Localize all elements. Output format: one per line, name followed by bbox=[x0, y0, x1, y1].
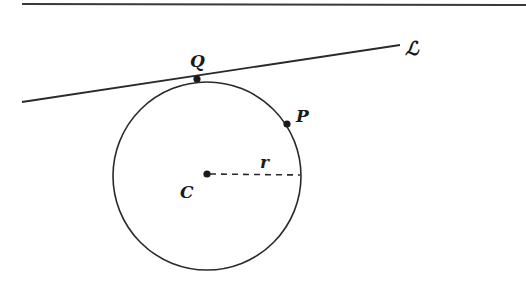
label-r: r bbox=[260, 152, 270, 172]
label-line-l: ℒ bbox=[405, 37, 420, 59]
label-q: Q bbox=[190, 51, 205, 71]
point-p bbox=[283, 120, 290, 127]
point-c-center bbox=[203, 170, 210, 177]
tangent-line-l bbox=[22, 45, 400, 102]
top-rule bbox=[22, 4, 526, 5]
label-c: C bbox=[180, 182, 194, 202]
label-p: P bbox=[295, 106, 310, 126]
tangent-circle-diagram: Q P C r ℒ bbox=[0, 0, 526, 298]
point-q bbox=[193, 75, 200, 82]
radius-segment bbox=[210, 174, 300, 175]
